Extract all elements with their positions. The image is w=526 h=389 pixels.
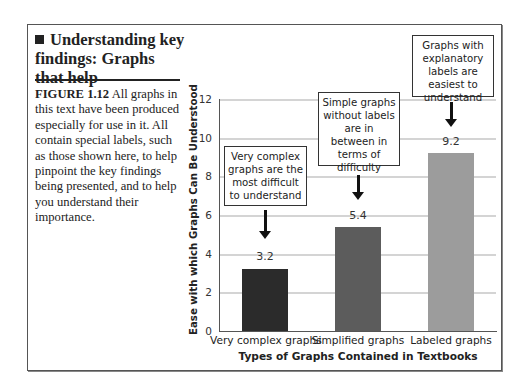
- y-tick: 12: [196, 93, 212, 105]
- annotation-labeled: Graphs with explanatory labels are easie…: [412, 35, 494, 97]
- value-label: 3.2: [242, 250, 288, 263]
- annotation-simplified: Simple graphs without labels are in betw…: [318, 92, 400, 166]
- x-category-label: Labeled graphs: [396, 334, 506, 346]
- heading-rule: [35, 79, 180, 81]
- y-tick: 6: [196, 209, 212, 221]
- value-label: 9.2: [428, 135, 474, 148]
- bar-very-complex: [242, 269, 288, 331]
- bar-simplified: [335, 227, 381, 331]
- figure-caption: FIGURE 1.12 All graphs in this text have…: [35, 87, 183, 226]
- square-bullet-icon: [35, 35, 44, 44]
- bar-labeled: [428, 153, 474, 331]
- down-arrow-icon: [445, 102, 457, 128]
- caption-text: All graphs in this text have been produc…: [35, 87, 179, 224]
- y-axis-line: [219, 99, 220, 332]
- down-arrow-icon: [259, 210, 271, 240]
- y-tick: 2: [196, 286, 212, 298]
- x-axis-label: Types of Graphs Contained in Textbooks: [220, 350, 496, 362]
- annotation-very-complex: Very complex graphs are the most difficu…: [224, 146, 307, 206]
- y-tick: 4: [196, 248, 212, 260]
- caption-label: FIGURE 1.12: [35, 87, 109, 101]
- down-arrow-icon: [352, 175, 364, 201]
- y-tick: 8: [196, 170, 212, 182]
- y-tick: 10: [196, 132, 212, 144]
- x-axis-line: [219, 331, 497, 332]
- value-label: 5.4: [335, 209, 381, 222]
